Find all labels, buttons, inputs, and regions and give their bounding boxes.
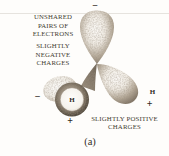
minus-sign-top-lobe: − [89,1,101,11]
plus-sign-right-hydrogen: + [143,99,157,109]
label-line: SLIGHTLY POSITIVE [86,115,163,124]
label-line: UNSHARED [23,13,83,22]
label-negative-charges: SLIGHTLY NEGATIVE CHARGES [23,42,83,68]
label-line: CHARGES [86,123,163,132]
label-line: PAIRS OF [23,22,83,31]
label-unshared-pairs: UNSHARED PAIRS OF ELECTRONS [23,13,83,39]
label-line: NEGATIVE [23,51,83,60]
label-line: CHARGES [23,59,83,68]
hydrogen-label-right: H [146,88,159,96]
label-line: SLIGHTLY [23,42,83,51]
label-line: ELECTRONS [23,30,83,39]
figure-caption: (a) [73,135,107,148]
plus-sign-front-hydrogen: + [63,116,77,126]
hydrogen-label-front: H [65,96,79,104]
figure-water-molecule-orbitals: UNSHARED PAIRS OF ELECTRONS SLIGHTLY NEG… [0,0,169,156]
label-positive-charges: SLIGHTLY POSITIVE CHARGES [86,115,163,132]
minus-sign-left-lobe: − [31,92,44,102]
